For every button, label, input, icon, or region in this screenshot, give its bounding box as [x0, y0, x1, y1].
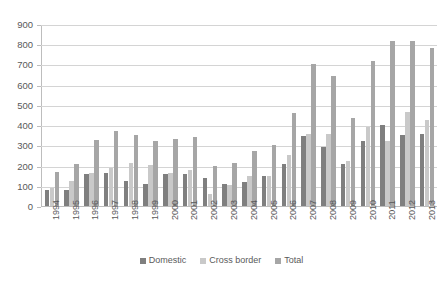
bar-total: [410, 41, 414, 206]
x-axis-tick: 2006: [280, 209, 300, 249]
legend-swatch-icon: [140, 258, 146, 264]
bar-total: [390, 41, 394, 206]
bar-cross: [326, 134, 330, 206]
bar-group: [398, 25, 418, 206]
x-axis-tick: 1995: [62, 209, 82, 249]
bar-group: [259, 25, 279, 206]
y-axis-tick-label: 500: [17, 101, 33, 111]
legend-label: Cross border: [209, 256, 261, 265]
x-axis-tick: 2011: [379, 209, 399, 249]
bar-total: [173, 139, 177, 206]
bar-domestic: [361, 141, 365, 206]
x-axis-tick: 2000: [161, 209, 181, 249]
x-axis-labels: 1994199519961997199819992000200120022003…: [42, 209, 438, 249]
bar-cross: [425, 120, 429, 206]
bar-total: [292, 113, 296, 206]
x-axis-tick: 2007: [299, 209, 319, 249]
legend-item-domestic[interactable]: Domestic: [140, 256, 187, 265]
bar-domestic: [203, 178, 207, 206]
bar-cross: [385, 141, 389, 206]
bar-domestic: [183, 174, 187, 206]
legend-item-cross[interactable]: Cross border: [200, 256, 261, 265]
x-axis-tick: 1994: [42, 209, 62, 249]
x-axis-tick: 2002: [200, 209, 220, 249]
x-axis-tick-label: 2007: [309, 200, 318, 220]
bar-total: [193, 137, 197, 206]
y-axis-labels: 0100200300400500600700800900: [0, 25, 37, 207]
bar-domestic: [222, 184, 226, 206]
bar-cross: [287, 155, 291, 206]
y-axis-tick-label: 700: [17, 61, 33, 71]
x-axis-tick: 1997: [101, 209, 121, 249]
x-axis-tick-label: 2000: [171, 200, 180, 220]
y-axis-tick-mark: [37, 25, 41, 26]
x-axis-tick-label: 1997: [111, 200, 120, 220]
legend-label: Total: [284, 256, 303, 265]
bar-domestic: [104, 173, 108, 206]
x-axis-tick-label: 2006: [289, 200, 298, 220]
bar-group: [161, 25, 181, 206]
x-axis-tick: 2013: [418, 209, 438, 249]
bar-group: [417, 25, 437, 206]
bar-group: [200, 25, 220, 206]
y-axis-tick-mark: [37, 126, 41, 127]
bar-total: [331, 76, 335, 206]
x-axis-tick-label: 2008: [329, 200, 338, 220]
bar-domestic: [282, 164, 286, 206]
x-axis-tick: 2009: [339, 209, 359, 249]
x-axis-tick-label: 1994: [52, 200, 61, 220]
bar-domestic: [64, 190, 68, 206]
x-axis-tick-label: 2001: [190, 200, 199, 220]
x-axis-tick: 1999: [141, 209, 161, 249]
bar-domestic: [124, 181, 128, 206]
bar-group: [279, 25, 299, 206]
x-axis-tick-label: 2004: [250, 200, 259, 220]
x-axis-tick-label: 2013: [428, 200, 437, 220]
bar-domestic: [321, 147, 325, 206]
bar-cross: [366, 127, 370, 206]
y-axis-tick-label: 800: [17, 40, 33, 50]
legend-label: Domestic: [149, 256, 187, 265]
bar-total: [272, 145, 276, 206]
bar-group: [299, 25, 319, 206]
y-axis-tick-mark: [37, 45, 41, 46]
x-axis-tick-label: 1998: [131, 200, 140, 220]
y-axis-tick-label: 200: [17, 162, 33, 172]
bar-group: [358, 25, 378, 206]
legend-item-total[interactable]: Total: [275, 256, 303, 265]
bar-total: [153, 141, 157, 206]
bar-group: [180, 25, 200, 206]
y-axis-tick-label: 400: [17, 121, 33, 131]
x-axis-tick-label: 2012: [408, 200, 417, 220]
x-axis-tick: 1998: [121, 209, 141, 249]
bar-domestic: [143, 184, 147, 206]
x-axis-tick-label: 2010: [369, 200, 378, 220]
bar-total: [114, 131, 118, 206]
bar-domestic: [301, 136, 305, 206]
bar-group: [101, 25, 121, 206]
legend-swatch-icon: [275, 258, 281, 264]
x-axis-tick: 2008: [319, 209, 339, 249]
y-axis-tick-label: 0: [28, 202, 33, 212]
bar-total: [351, 118, 355, 206]
y-axis-tick-mark: [37, 65, 41, 66]
bar-groups: [42, 25, 437, 206]
bar-total: [252, 151, 256, 206]
x-axis-tick-label: 1995: [72, 200, 81, 220]
bar-group: [378, 25, 398, 206]
bar-group: [62, 25, 82, 206]
y-axis-tick-label: 100: [17, 182, 33, 192]
x-axis-tick: 2001: [181, 209, 201, 249]
bar-group: [141, 25, 161, 206]
x-axis-tick: 2004: [240, 209, 260, 249]
bar-domestic: [420, 134, 424, 206]
x-axis-tick-label: 2005: [270, 200, 279, 220]
bar-group: [319, 25, 339, 206]
plot-area: [41, 25, 437, 207]
y-axis-tick-mark: [37, 207, 41, 208]
x-axis-tick-label: 1996: [91, 200, 100, 220]
bar-group: [240, 25, 260, 206]
x-axis-tick: 2005: [260, 209, 280, 249]
bar-total: [94, 140, 98, 206]
chart-container: 0100200300400500600700800900 19941995199…: [0, 0, 443, 289]
